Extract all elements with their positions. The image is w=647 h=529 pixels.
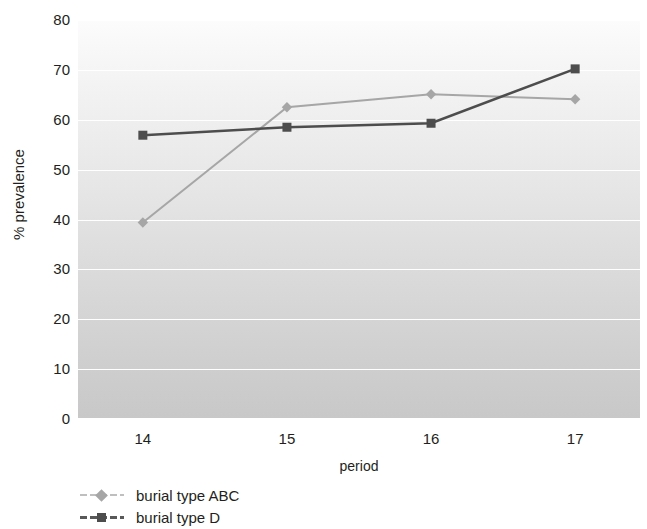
x-tick-label: 17 xyxy=(545,430,605,447)
y-axis-title: % prevalence xyxy=(10,115,27,275)
series-d xyxy=(138,64,579,139)
data-point-marker xyxy=(282,123,291,132)
x-tick-label: 14 xyxy=(113,430,173,447)
series-line xyxy=(143,69,575,135)
series-abc xyxy=(138,89,581,228)
data-point-marker xyxy=(426,89,436,99)
data-point-marker xyxy=(570,94,580,104)
legend-label: burial type D xyxy=(126,509,220,526)
legend-key xyxy=(78,509,126,525)
legend: burial type ABCburial type D xyxy=(78,484,478,528)
legend-key xyxy=(78,487,126,503)
diamond-marker-icon xyxy=(95,489,108,502)
series-line xyxy=(143,94,575,222)
data-point-marker xyxy=(571,64,580,73)
y-tick-label: 0 xyxy=(4,411,70,426)
data-point-marker xyxy=(427,119,436,128)
y-tick-label: 10 xyxy=(4,361,70,376)
x-tick-label: 16 xyxy=(401,430,461,447)
series-layer xyxy=(78,20,640,419)
legend-label: burial type ABC xyxy=(126,487,239,504)
x-tick-label: 15 xyxy=(257,430,317,447)
line-chart: 80706050403020100 % prevalence 14151617 … xyxy=(0,0,647,529)
square-marker-icon xyxy=(97,513,106,522)
plot-area xyxy=(78,20,640,419)
y-tick-label: 20 xyxy=(4,311,70,326)
y-tick-label: 70 xyxy=(4,62,70,77)
data-point-marker xyxy=(138,131,147,140)
legend-item[interactable]: burial type D xyxy=(78,506,478,528)
x-axis-title: period xyxy=(78,458,640,474)
legend-item[interactable]: burial type ABC xyxy=(78,484,478,506)
y-tick-label: 80 xyxy=(4,12,70,27)
